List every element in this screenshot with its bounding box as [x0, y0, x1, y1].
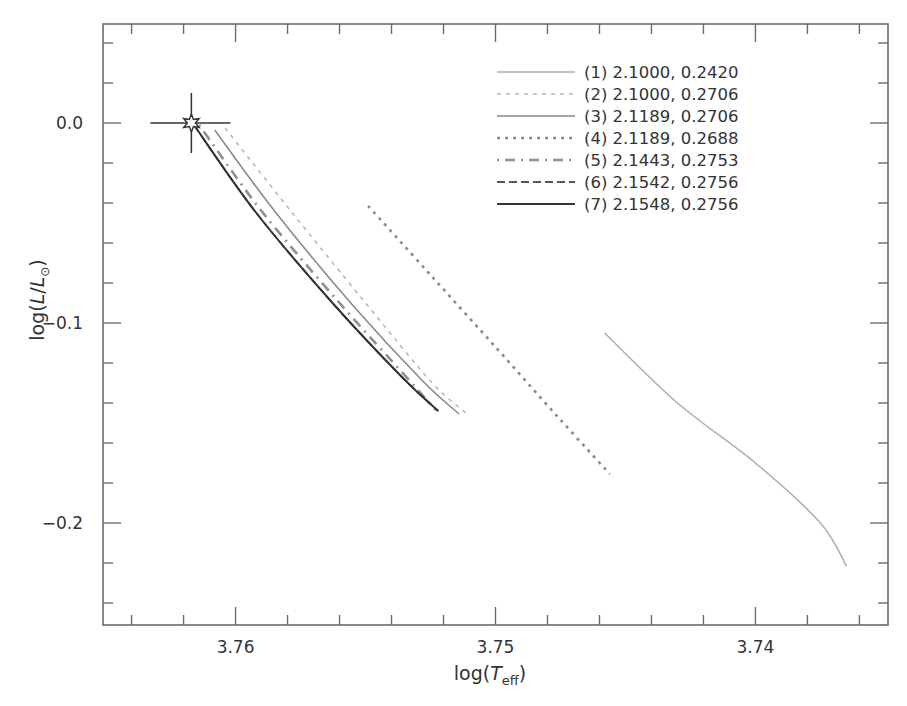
- legend: (1) 2.1000, 0.2420(2) 2.1000, 0.2706(3) …: [497, 63, 739, 214]
- plot-border: [103, 24, 888, 625]
- track-curve-3: [215, 130, 459, 414]
- y-tick-label: −0.2: [42, 513, 83, 533]
- x-tick-label: 3.74: [737, 637, 775, 657]
- track-curve-5: [199, 125, 436, 410]
- track-curve-2: [225, 128, 467, 414]
- sun-marker-icon: [150, 93, 230, 153]
- x-tick-label: 3.76: [217, 637, 255, 657]
- legend-label-5: (5) 2.1443, 0.2753: [584, 151, 739, 170]
- track-curve-6: [194, 125, 438, 411]
- track-curve-4: [368, 206, 610, 474]
- legend-label-7: (7) 2.1548, 0.2756: [584, 195, 739, 214]
- track-curve-7: [194, 125, 438, 411]
- hr-diagram-chart: 3.763.753.740.0−0.1−0.2 (1) 2.1000, 0.24…: [0, 0, 907, 706]
- x-tick-label: 3.75: [477, 637, 515, 657]
- x-axis-title: log(Teff): [454, 662, 526, 688]
- legend-label-2: (2) 2.1000, 0.2706: [584, 85, 739, 104]
- track-curves: [194, 125, 846, 566]
- track-curve-1: [605, 333, 847, 566]
- legend-label-4: (4) 2.1189, 0.2688: [584, 129, 739, 148]
- y-tick-label: 0.0: [56, 113, 83, 133]
- legend-label-6: (6) 2.1542, 0.2756: [584, 173, 739, 192]
- legend-label-3: (3) 2.1189, 0.2706: [584, 107, 739, 126]
- plot-frame: [103, 24, 888, 625]
- axis-ticks: [103, 24, 888, 625]
- legend-label-1: (1) 2.1000, 0.2420: [584, 63, 739, 82]
